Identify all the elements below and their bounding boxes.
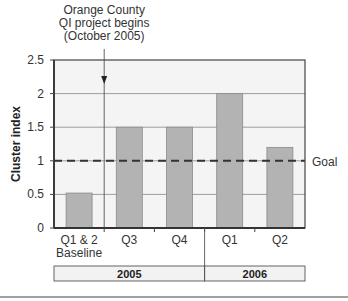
bar-4 <box>267 147 293 228</box>
year-group-label: 2005 <box>117 268 141 280</box>
bar-1 <box>116 127 142 228</box>
annotation-text: QI project begins <box>59 16 150 30</box>
y-tick-label: 0.5 <box>27 187 44 201</box>
x-category-label: Q4 <box>171 233 187 247</box>
annotation-text: (October 2005) <box>64 29 145 43</box>
x-category-label: Q1 <box>222 233 238 247</box>
y-tick-label: 1.5 <box>27 120 44 134</box>
annotation-text: Orange County <box>64 3 145 17</box>
goal-label: Goal <box>312 155 337 169</box>
y-tick-label: 2 <box>37 87 44 101</box>
y-tick-label: 0 <box>37 221 44 235</box>
x-category-label: Q3 <box>121 233 137 247</box>
year-group-label: 2006 <box>243 268 267 280</box>
bar-0 <box>66 193 92 228</box>
x-category-label: Baseline <box>56 246 102 260</box>
y-tick-label: 2.5 <box>27 53 44 67</box>
bar-2 <box>167 127 193 228</box>
bar-chart: Goal00.511.522.5Q1 & 2BaselineQ3Q4Q1Q2Cl… <box>0 0 348 301</box>
x-category-label: Q1 & 2 <box>60 233 98 247</box>
y-axis-title: Cluster index <box>9 106 23 182</box>
y-tick-label: 1 <box>37 154 44 168</box>
chart-canvas: Goal00.511.522.5Q1 & 2BaselineQ3Q4Q1Q2Cl… <box>0 0 348 301</box>
x-category-label: Q2 <box>272 233 288 247</box>
